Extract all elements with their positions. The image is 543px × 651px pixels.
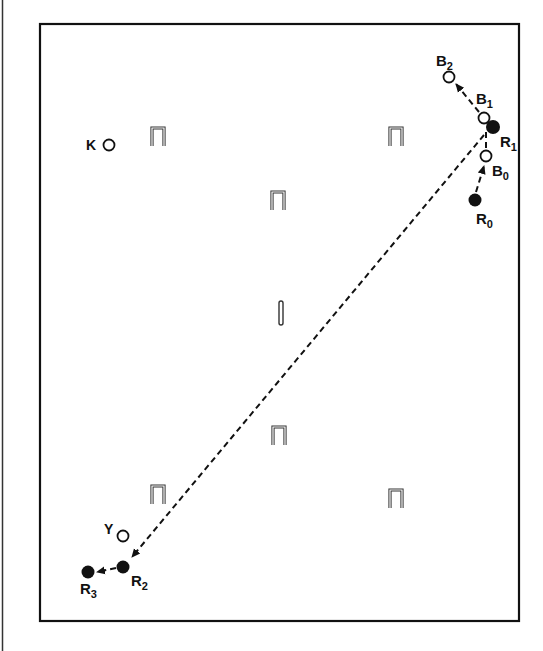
label-r3: R3 [80,580,97,600]
label-b0: B0 [492,162,509,182]
ball-r2 [117,561,130,574]
label-b2: B2 [436,52,453,72]
hoop-icon [152,128,164,146]
path-r1-to-r2 [132,135,484,557]
ball-y [118,531,129,542]
ball-b2 [444,72,455,83]
label-r0: R0 [476,210,493,230]
hoop-icon [152,486,164,504]
hoop-icon [390,490,402,508]
peg-icon [279,301,283,325]
path-r0-to-b0 [476,166,484,192]
label-r1: R1 [500,133,517,153]
ball-r3 [82,566,95,579]
hoops [152,128,402,508]
shot-paths [97,84,486,572]
croquet-diagram: K Y B2 B1 R1 B0 R0 R2 R3 [0,0,543,651]
hoop-icon [272,192,284,210]
label-y: Y [104,521,114,537]
ball-r0 [469,194,482,207]
hoop-icon [273,427,285,445]
ball-labels: K Y B2 B1 R1 B0 R0 R2 R3 [80,52,517,600]
ball-b1 [479,113,490,124]
path-r2-to-r3 [97,568,116,572]
label-b1: B1 [476,90,493,110]
ball-b0 [481,151,492,162]
label-r2: R2 [131,572,148,592]
label-k: K [86,137,96,153]
balls [82,72,501,579]
ball-k [104,140,115,151]
hoop-icon [390,128,402,146]
